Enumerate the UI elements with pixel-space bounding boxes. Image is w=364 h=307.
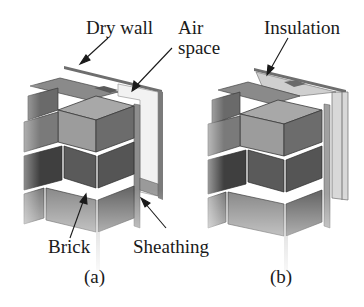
wall-diagram: Dry wall Air space Brick Sheathing (a) I… (0, 0, 364, 307)
label-air-line1: Air (178, 18, 203, 37)
caption-b: (b) (270, 267, 292, 286)
label-dry-wall: Dry wall (86, 18, 153, 37)
wall-b (190, 60, 364, 284)
label-sheathing: Sheathing (133, 237, 209, 256)
label-insulation: Insulation (264, 18, 340, 37)
label-brick: Brick (48, 237, 90, 256)
caption-a: (a) (84, 267, 105, 286)
label-air-line2: space (178, 38, 220, 57)
